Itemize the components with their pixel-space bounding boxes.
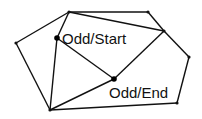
edge-bottom_left-odd_start [50,38,57,110]
vertex-odd-start [54,35,60,41]
edge-right-bottom_right [177,57,189,103]
vertex-right [187,55,190,58]
odd-start-label: Odd/Start [62,30,127,47]
vertex-odd-end [111,76,117,82]
vertex-bottom-left [48,108,51,111]
edge-bottom_right-bottom_left [50,103,177,110]
vertex-top-right [146,10,149,13]
edge-mid_right-right [164,31,189,57]
vertex-left [14,41,17,44]
vertex-top [67,10,70,13]
vertex-bottom-right [175,101,178,104]
odd-end-label: Odd/End [109,84,168,101]
graph-diagram: Odd/Start Odd/End [0,0,202,119]
edge-bottom_left-odd_end [50,79,114,110]
edge-bottom_left-left [16,43,50,110]
vertex-mid-right [162,29,165,32]
